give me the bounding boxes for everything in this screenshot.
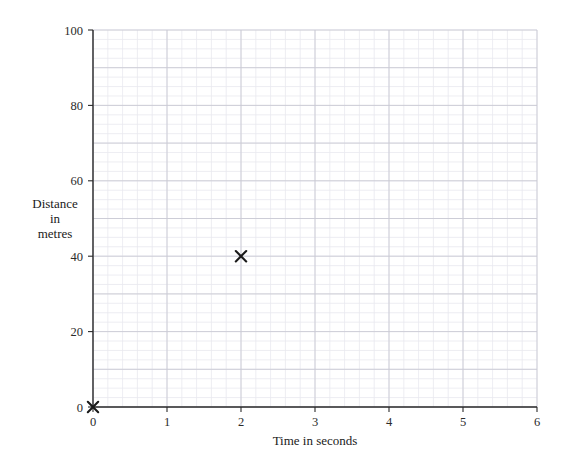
y-tick-label: 40 [71, 250, 84, 264]
x-axis-title-text: Time in seconds [273, 433, 358, 448]
distance-time-graph: 0123456 020406080100 Time in seconds Dis… [0, 0, 561, 459]
chart-container: 0123456 020406080100 Time in seconds Dis… [0, 0, 561, 459]
y-axis-title-line: metres [38, 226, 73, 241]
x-axis-title: Time in seconds [273, 433, 358, 448]
y-tick-label: 60 [71, 174, 84, 188]
x-tick-label: 4 [386, 415, 393, 429]
x-tick-label: 3 [312, 415, 318, 429]
y-tick-label: 80 [71, 99, 84, 113]
y-axis-title-line: Distance [32, 196, 78, 211]
y-tick-label: 0 [77, 401, 83, 415]
y-tick-label: 100 [64, 24, 83, 38]
x-tick-label: 2 [238, 415, 244, 429]
y-axis-title-line: in [50, 211, 61, 226]
x-tick-label: 6 [534, 415, 540, 429]
x-tick-label: 0 [90, 415, 96, 429]
x-tick-label: 1 [164, 415, 170, 429]
y-tick-label: 20 [71, 325, 84, 339]
chart-background [0, 0, 561, 459]
x-tick-label: 5 [460, 415, 466, 429]
